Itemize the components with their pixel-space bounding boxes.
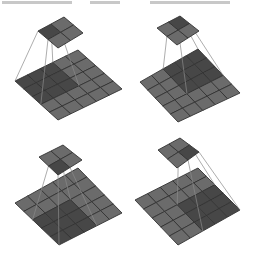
panel-4	[135, 138, 240, 245]
input-grid	[15, 168, 122, 245]
input-grid	[140, 49, 240, 122]
output-patch	[157, 16, 199, 45]
panel-3	[15, 145, 122, 245]
input-grid	[15, 50, 122, 120]
output-patch	[38, 17, 83, 48]
input-grid	[135, 168, 240, 245]
panel-2	[140, 16, 240, 122]
panel-1	[15, 17, 122, 120]
output-patch	[158, 138, 199, 168]
convolution-diagram	[0, 0, 254, 256]
